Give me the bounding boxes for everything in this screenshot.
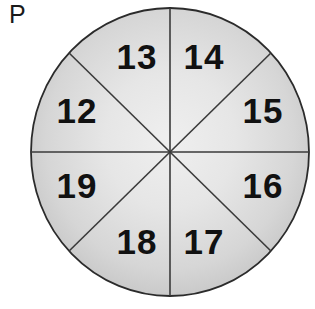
sector-label-12: 12: [57, 91, 98, 130]
sector-label-16: 16: [243, 166, 284, 205]
sector-label-18: 18: [117, 222, 158, 261]
sector-label-19: 19: [57, 166, 98, 205]
sector-label-15: 15: [243, 91, 284, 130]
sector-label-17: 17: [184, 222, 225, 261]
sector-label-13: 13: [117, 37, 158, 76]
spinner-diagram: P 12 13 14 15 16 17 18: [0, 0, 315, 309]
eight-sector-circle: 12 13 14 15 16 17 18 19: [0, 0, 315, 309]
sector-label-14: 14: [184, 37, 225, 76]
